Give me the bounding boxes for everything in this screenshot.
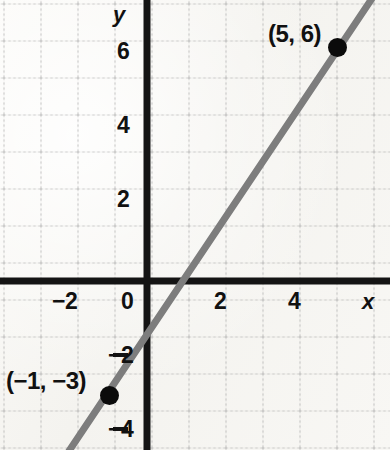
origin-label: 0 — [121, 290, 133, 313]
y-axis-label: y — [113, 4, 125, 26]
point-label-5-6: (5, 6) — [268, 22, 321, 46]
y-tick-neg2: −2 — [108, 344, 133, 367]
x-tick-4: 4 — [288, 290, 300, 313]
point-marker-5-6[interactable] — [328, 38, 347, 57]
y-tick-6: 6 — [117, 40, 129, 63]
x-tick-2: 2 — [214, 290, 226, 313]
y-tick-neg4: −4 — [108, 418, 133, 441]
x-tick-neg2: −2 — [52, 290, 77, 313]
graph-canvas: y 6 4 2 −2 −4 −2 0 2 4 x (5, 6) (−1, −3) — [0, 0, 390, 450]
y-tick-4: 4 — [117, 114, 129, 137]
point-label-neg1-neg3: (−1, −3) — [6, 369, 86, 393]
point-marker-neg1-neg3[interactable] — [100, 386, 119, 405]
x-axis-label: x — [362, 291, 374, 313]
y-tick-2: 2 — [117, 188, 129, 211]
line-segment — [69, 0, 379, 450]
